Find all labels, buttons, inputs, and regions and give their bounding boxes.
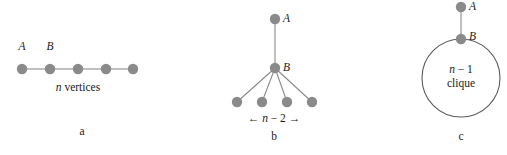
panel-caption-a: a <box>79 126 84 138</box>
clique-line1-rest: − 1 <box>455 63 473 75</box>
right-arrow-icon: → <box>289 112 301 124</box>
vertex-b-leaf-1 <box>232 97 242 107</box>
vertex-b-leaf-4 <box>307 97 317 107</box>
n-vertices-text: vertices <box>62 81 101 93</box>
vertex-b-B <box>270 63 280 73</box>
vertex-label-a-A: A <box>18 41 25 53</box>
panel-c: A B n − 1 clique c <box>350 0 507 155</box>
figure-container: A B n vertices a A B ← n − 2 → b <box>0 0 507 155</box>
clique-label-line1: n − 1 <box>416 62 506 76</box>
vertex-a-4 <box>101 64 111 74</box>
vertex-label-b-A: A <box>283 13 290 25</box>
vertex-label-c-B: B <box>469 31 476 43</box>
vertex-a-3 <box>73 64 83 74</box>
bracket-expression: − 2 <box>268 112 289 124</box>
vertex-label-c-A: A <box>469 1 476 13</box>
panel-b: A B ← n − 2 → b <box>170 0 350 155</box>
vertex-b-A <box>270 14 280 24</box>
vertex-c-A <box>456 2 466 12</box>
vertex-c-B <box>456 34 466 44</box>
vertex-a-B <box>45 64 55 74</box>
vertex-b-leaf-3 <box>282 97 292 107</box>
left-arrow-icon: ← <box>248 112 260 124</box>
panel-a-graph <box>0 0 170 155</box>
panel-caption-b: b <box>271 131 277 143</box>
edge-b-leaf-1 <box>237 68 275 102</box>
clique-label: n − 1 clique <box>416 62 506 91</box>
vertex-label-b-B: B <box>283 62 290 74</box>
vertex-label-a-B: B <box>46 41 53 53</box>
vertex-a-A <box>17 64 27 74</box>
vertex-b-leaf-2 <box>257 97 267 107</box>
n-minus-2-bracket-label: ← n − 2 → <box>248 113 301 125</box>
panel-b-graph <box>170 0 350 155</box>
panel-a: A B n vertices a <box>0 0 170 155</box>
panel-caption-c: c <box>458 131 463 143</box>
vertex-a-5 <box>128 64 138 74</box>
clique-label-line2: clique <box>416 76 506 90</box>
n-vertices-label: n vertices <box>56 82 100 94</box>
